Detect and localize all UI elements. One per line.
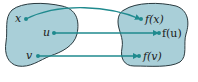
- point-u: [52, 31, 56, 35]
- label-u: u: [43, 26, 50, 39]
- label-fu: f(u): [162, 27, 182, 40]
- point-fu: [157, 31, 161, 35]
- point-fv: [137, 54, 141, 58]
- label-fx: f(x): [144, 13, 164, 26]
- label-fv: f(v): [142, 50, 162, 63]
- point-x: [24, 17, 28, 21]
- label-x: x: [15, 12, 22, 25]
- function-mapping-diagram: x u v f(x) f(u) f(v): [0, 0, 198, 82]
- point-v: [36, 54, 40, 58]
- point-fx: [139, 17, 143, 21]
- label-v: v: [26, 49, 33, 62]
